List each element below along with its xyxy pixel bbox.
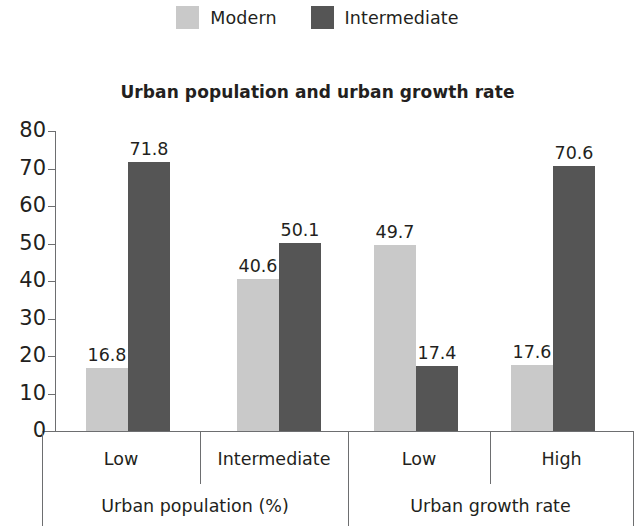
bar-series-layer: 16.840.649.717.671.850.117.470.6 (0, 0, 635, 526)
bar-value-label: 49.7 (360, 224, 430, 242)
bar-value-label: 50.1 (265, 222, 335, 240)
bar-modern-2 (374, 245, 416, 431)
bar-modern-3 (511, 365, 553, 431)
bar-intermediate-3 (553, 166, 595, 431)
plot-area: 01020304050607080 16.840.649.717.671.850… (0, 0, 635, 526)
bar-modern-1 (237, 279, 279, 431)
category-group-label: Urban growth rate (348, 498, 633, 516)
category-axis-frame-line (633, 431, 634, 526)
bar-value-label: 70.6 (539, 145, 609, 163)
bar-intermediate-1 (279, 243, 321, 431)
bar-value-label: 71.8 (114, 141, 184, 159)
bar-modern-0 (86, 368, 128, 431)
category-label: Low (42, 451, 200, 469)
bar-intermediate-0 (128, 162, 170, 431)
category-label: Intermediate (200, 451, 348, 469)
category-label: High (490, 451, 633, 469)
category-group-label: Urban population (%) (42, 498, 348, 516)
bar-value-label: 17.4 (402, 345, 472, 363)
bar-intermediate-2 (416, 366, 458, 431)
category-label: Low (348, 451, 490, 469)
